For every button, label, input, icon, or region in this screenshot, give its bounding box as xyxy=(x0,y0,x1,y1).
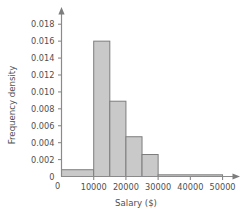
y-tick-label: 0 xyxy=(49,172,54,182)
y-tick-label: 0.004 xyxy=(31,138,54,148)
x-tick-label: 40000 xyxy=(177,182,203,192)
y-tick-label: 0.014 xyxy=(31,53,54,63)
histogram-bar xyxy=(126,137,142,177)
histogram-bar xyxy=(142,155,158,177)
x-tick-label: 10000 xyxy=(81,182,107,192)
origin-tick-label: 0 xyxy=(55,181,60,191)
x-axis-title: Salary ($) xyxy=(115,198,157,208)
x-axis: 01000020000300004000050000 xyxy=(55,173,240,191)
histogram-bar xyxy=(62,170,94,177)
y-axis-title: Frequency density xyxy=(7,66,17,145)
y-tick-label: 0.002 xyxy=(31,155,54,165)
y-tick-label: 0.010 xyxy=(31,87,54,97)
x-tick-label: 30000 xyxy=(145,182,171,192)
histogram-bar xyxy=(110,101,126,176)
histogram-chart: 00.0020.0040.0060.0080.0100.0120.0140.01… xyxy=(0,0,248,213)
y-tick-label: 0.018 xyxy=(31,19,54,29)
y-tick-label: 0.008 xyxy=(31,104,54,114)
histogram-bar xyxy=(94,41,110,176)
y-tick-label: 0.016 xyxy=(31,36,54,46)
x-tick-label: 50000 xyxy=(210,182,236,192)
histogram-svg: 00.0020.0040.0060.0080.0100.0120.0140.01… xyxy=(0,0,248,213)
y-tick-label: 0.006 xyxy=(31,121,54,131)
y-tick-label: 0.012 xyxy=(31,70,54,80)
x-tick-label: 20000 xyxy=(113,182,139,192)
